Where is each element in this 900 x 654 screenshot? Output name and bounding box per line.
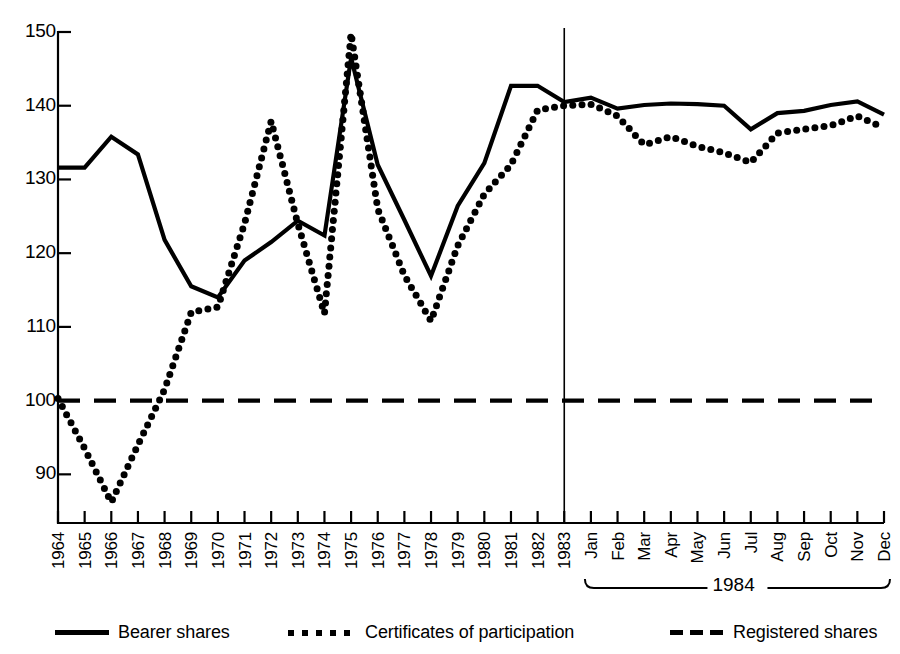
x-tick-label-1978: 1978 bbox=[422, 532, 442, 569]
x-tick-label-1974: 1974 bbox=[315, 532, 335, 569]
x-tick-label-Dec: Dec bbox=[875, 532, 895, 562]
series-1-dots bbox=[55, 34, 880, 504]
legend-swatch-dashed-icon bbox=[670, 630, 724, 635]
brace-label-1984: 1984 bbox=[712, 574, 754, 596]
y-tick-label-110: 110 bbox=[0, 315, 56, 337]
x-tick-label-1966: 1966 bbox=[102, 532, 122, 569]
y-tick-label-130: 130 bbox=[0, 167, 56, 189]
legend-swatch-solid-icon bbox=[55, 630, 109, 635]
x-tick-label-1967: 1967 bbox=[129, 532, 149, 569]
x-tick-label-Apr: Apr bbox=[662, 532, 682, 558]
y-tick-label-90: 90 bbox=[0, 462, 56, 484]
legend-item-bearer-shares: Bearer shares bbox=[55, 622, 230, 643]
x-tick-label-Jun: Jun bbox=[715, 532, 735, 559]
legend-item-certificates-of-participation: Certificates of participation bbox=[288, 622, 574, 643]
x-tick-label-Sep: Sep bbox=[795, 532, 815, 562]
x-tick-label-1982: 1982 bbox=[529, 532, 549, 569]
x-tick-label-Feb: Feb bbox=[609, 532, 629, 561]
x-tick-label-Jul: Jul bbox=[742, 532, 762, 553]
x-tick-label-Mar: Mar bbox=[635, 532, 655, 561]
chart-figure: 90100110120130140150 1964196519661967196… bbox=[0, 0, 900, 654]
x-tick-label-1981: 1981 bbox=[502, 532, 522, 569]
x-tick-label-May: May bbox=[688, 532, 708, 564]
x-tick-label-1976: 1976 bbox=[369, 532, 389, 569]
y-tick-label-100: 100 bbox=[0, 389, 56, 411]
x-tick-label-1970: 1970 bbox=[209, 532, 229, 569]
y-tick-label-150: 150 bbox=[0, 20, 56, 42]
y-tick-label-120: 120 bbox=[0, 241, 56, 263]
x-tick-label-1983: 1983 bbox=[555, 532, 575, 569]
x-tick-label-1977: 1977 bbox=[395, 532, 415, 569]
x-tick-label-1980: 1980 bbox=[475, 532, 495, 569]
legend-item-registered-shares: Registered shares bbox=[670, 622, 877, 643]
legend-swatch-dotted-icon bbox=[288, 630, 356, 636]
x-tick-label-Oct: Oct bbox=[822, 532, 842, 558]
y-tick-label-140: 140 bbox=[0, 94, 56, 116]
chart-legend: Bearer shares Certificates of participat… bbox=[0, 612, 900, 654]
x-tick-label-Aug: Aug bbox=[768, 532, 788, 562]
x-tick-label-1964: 1964 bbox=[49, 532, 69, 569]
series-0-line bbox=[58, 58, 884, 298]
x-tick-label-1971: 1971 bbox=[236, 532, 256, 569]
x-tick-label-1973: 1973 bbox=[289, 532, 309, 569]
x-tick-label-1968: 1968 bbox=[156, 532, 176, 569]
x-tick-label-1969: 1969 bbox=[182, 532, 202, 569]
x-tick-label-Jan: Jan bbox=[582, 532, 602, 559]
x-tick-label-Nov: Nov bbox=[848, 532, 868, 562]
axis-lines bbox=[58, 31, 884, 523]
x-tick-label-1979: 1979 bbox=[449, 532, 469, 569]
legend-label-1: Certificates of participation bbox=[365, 622, 574, 643]
x-tick-label-1975: 1975 bbox=[342, 532, 362, 569]
legend-label-0: Bearer shares bbox=[118, 622, 230, 643]
legend-label-2: Registered shares bbox=[733, 622, 877, 643]
x-tick-label-1972: 1972 bbox=[262, 532, 282, 569]
x-tick-label-1965: 1965 bbox=[76, 532, 96, 569]
